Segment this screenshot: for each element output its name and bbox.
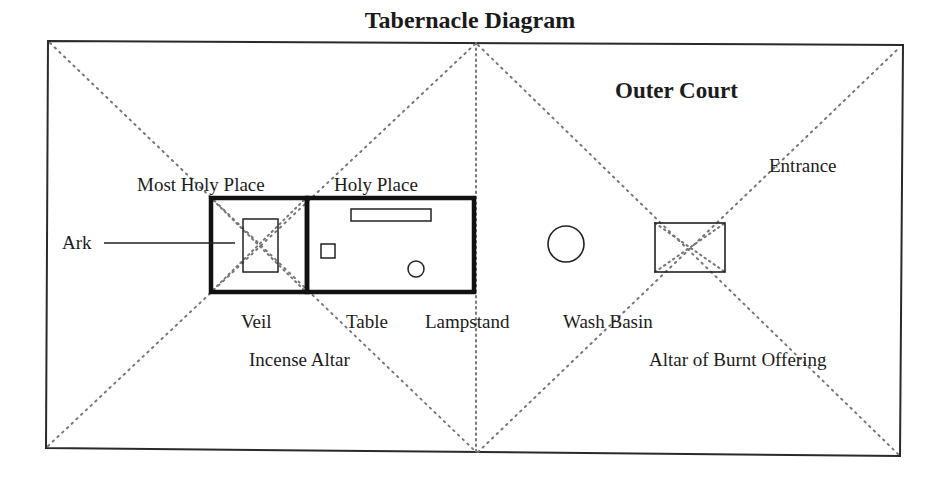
lampstand-shape [408, 261, 424, 277]
tabernacle-diagram-canvas [0, 0, 940, 479]
ark-label: Ark [62, 233, 92, 252]
most-holy-diagonal-2 [213, 200, 304, 290]
wash-basin-shape [548, 226, 584, 262]
outer-court-label: Outer Court [615, 79, 738, 102]
altar-of-burnt-offering-label: Altar of Burnt Offering [649, 350, 826, 369]
table-label: Table [346, 312, 388, 331]
diagram-title: Tabernacle Diagram [0, 8, 940, 32]
incense-altar-label: Incense Altar [249, 350, 350, 369]
table-shape [351, 209, 431, 221]
most-holy-diagonal-1 [213, 200, 304, 290]
entrance-label: Entrance [769, 156, 837, 175]
diagonal-right-2 [478, 47, 900, 452]
holy-place-box [307, 198, 474, 292]
incense-altar-shape [321, 244, 335, 258]
diagonal-left-1 [50, 43, 474, 450]
wash-basin-label: Wash Basin [563, 312, 653, 331]
veil-label: Veil [241, 312, 272, 331]
holy-place-label: Holy Place [334, 175, 418, 194]
most-holy-place-label: Most Holy Place [137, 175, 265, 194]
diagonal-left-2 [48, 45, 474, 446]
lampstand-label: Lampstand [425, 312, 509, 331]
